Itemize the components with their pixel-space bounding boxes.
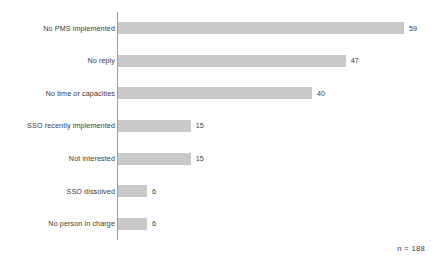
bar-value-label: 15 bbox=[196, 154, 204, 163]
sample-size-annotation: n = 188 bbox=[397, 244, 425, 253]
category-label: SSO dissolved bbox=[0, 187, 115, 196]
bar-value-label: 6 bbox=[152, 219, 156, 228]
bar-row: No time or capacities 40 bbox=[0, 77, 437, 110]
bar-group: 47 bbox=[118, 55, 359, 67]
bar-group: 6 bbox=[118, 218, 156, 230]
plot-area: No PMS implemented 59 No reply 47 No tim… bbox=[0, 12, 437, 240]
bar bbox=[118, 22, 404, 34]
bar bbox=[118, 153, 191, 165]
bar-row: No person in charge 6 bbox=[0, 207, 437, 240]
category-label: No PMS implemented bbox=[0, 24, 115, 33]
bar-row: No reply 47 bbox=[0, 45, 437, 78]
bar-value-label: 40 bbox=[317, 89, 325, 98]
category-label: No reply bbox=[0, 56, 115, 65]
bar-value-label: 6 bbox=[152, 187, 156, 196]
bar-group: 15 bbox=[118, 120, 204, 132]
bar-group: 15 bbox=[118, 153, 204, 165]
bar-row: SSO dissolved 6 bbox=[0, 175, 437, 208]
bar bbox=[118, 185, 147, 197]
category-label: Not interested bbox=[0, 154, 115, 163]
bar-group: 59 bbox=[118, 22, 417, 34]
bar-row: SSO recently implemented 15 bbox=[0, 110, 437, 143]
bar-value-label: 59 bbox=[409, 24, 417, 33]
bar-value-label: 15 bbox=[196, 121, 204, 130]
bar-value-label: 47 bbox=[351, 56, 359, 65]
category-label: No time or capacities bbox=[0, 89, 115, 98]
bar-row: No PMS implemented 59 bbox=[0, 12, 437, 45]
bar-group: 6 bbox=[118, 185, 156, 197]
bar bbox=[118, 87, 312, 99]
category-label: SSO recently implemented bbox=[0, 121, 115, 130]
bar-row: Not interested 15 bbox=[0, 142, 437, 175]
category-label: No person in charge bbox=[0, 219, 115, 228]
bar bbox=[118, 120, 191, 132]
bar-chart: No PMS implemented 59 No reply 47 No tim… bbox=[0, 0, 437, 263]
bar bbox=[118, 55, 346, 67]
bar-group: 40 bbox=[118, 87, 325, 99]
bar bbox=[118, 218, 147, 230]
